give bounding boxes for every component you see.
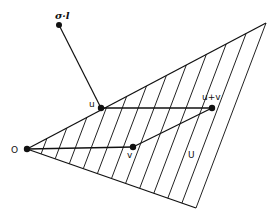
- hatch-line: [69, 118, 87, 164]
- label-sigma-l: σ·l: [55, 10, 70, 21]
- cone-hatching: [41, 23, 266, 208]
- label-u-plus-v: u+v: [202, 92, 221, 102]
- label-cone-u: U: [188, 150, 195, 160]
- label-v: v: [127, 150, 133, 160]
- cone-lower-edge: [27, 149, 196, 208]
- cone-upper-edge: [27, 23, 266, 149]
- hatch-line: [196, 23, 266, 208]
- hatch-line: [168, 44, 226, 198]
- point-u: [98, 105, 104, 111]
- point-sigma-l: [56, 22, 62, 28]
- segment-v-to-u-plus-v: [133, 108, 212, 147]
- label-u: u: [89, 99, 95, 109]
- cone-diagram: O σ·l u v u+v U: [0, 0, 276, 219]
- segment-sigma-l-to-u: [59, 25, 101, 108]
- hatch-line: [112, 86, 147, 179]
- hatch-line: [126, 76, 167, 184]
- label-origin: O: [11, 145, 18, 155]
- point-origin: [24, 146, 30, 152]
- point-u-plus-v: [209, 105, 215, 111]
